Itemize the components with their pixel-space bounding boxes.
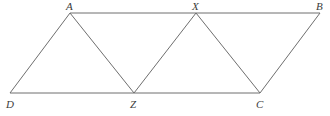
- segment-Z-X: [134, 13, 196, 93]
- vertex-label-a: A: [66, 1, 73, 12]
- geometry-figure: A X B D Z C: [0, 0, 330, 116]
- segment-A-Z: [70, 13, 134, 93]
- vertex-label-z: Z: [130, 99, 136, 110]
- segment-X-C: [196, 13, 260, 93]
- segment-C-B: [260, 13, 320, 93]
- segment-D-A: [10, 13, 70, 93]
- vertex-label-b: B: [316, 1, 323, 12]
- vertex-label-x: X: [192, 1, 199, 12]
- vertex-label-d: D: [6, 99, 14, 110]
- vertex-label-c: C: [256, 99, 263, 110]
- geometry-canvas: [0, 0, 330, 116]
